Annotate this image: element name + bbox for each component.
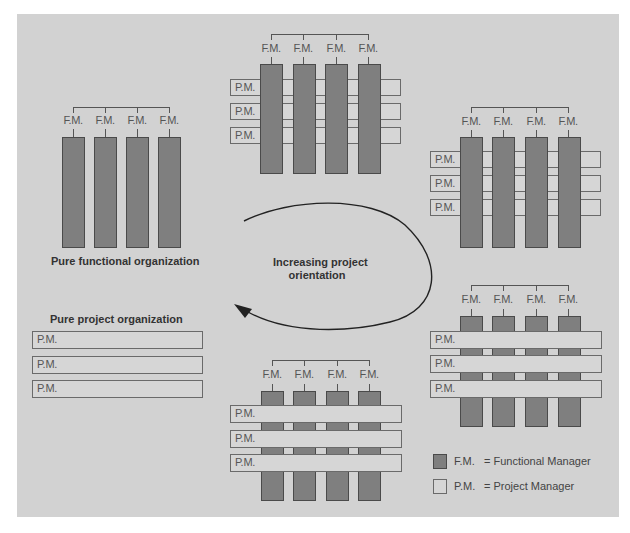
legend-fm-abbr: F.M. xyxy=(454,455,475,467)
legend-pm-swatch xyxy=(433,479,447,494)
legend-pm-abbr: P.M. xyxy=(454,480,475,492)
center-label-line1: Increasing project xyxy=(273,256,361,268)
legend-fm-swatch xyxy=(433,454,447,469)
legend-fm-meaning: = Functional Manager xyxy=(484,455,591,467)
center-label-line2: orientation xyxy=(273,269,361,281)
legend-pm-meaning: = Project Manager xyxy=(484,480,574,492)
